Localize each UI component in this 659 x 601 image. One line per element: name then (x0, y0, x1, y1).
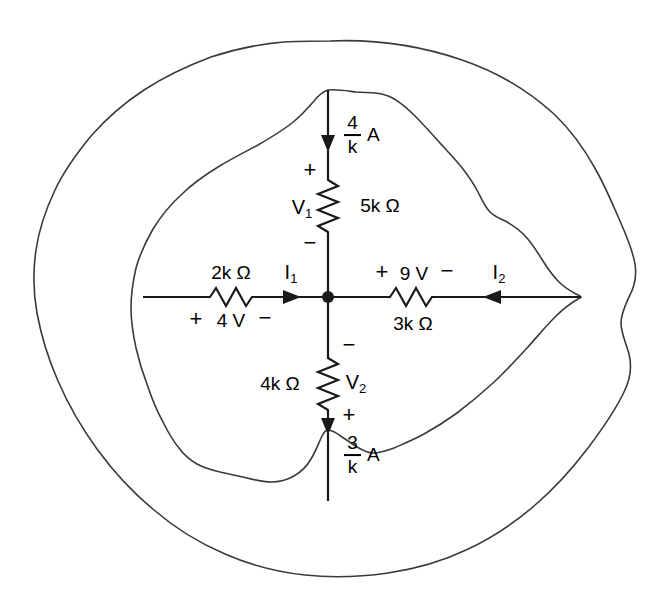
bottom-branch-minus-sign: − (343, 334, 356, 356)
resistor-5k-label: 5k Ω (360, 196, 400, 215)
top-current-source-label: 4 k A (344, 113, 380, 157)
voltage-v2-name: V (346, 371, 359, 393)
top-branch-plus-sign: + (304, 159, 317, 181)
source-9v-plus: + (376, 261, 389, 283)
source-4v-minus: − (259, 307, 272, 329)
bottom-branch-plus-sign: + (343, 404, 356, 426)
top-current-denominator: k (345, 136, 361, 157)
top-branch-minus-sign: − (304, 232, 317, 254)
resistor-2k-zigzag (210, 288, 252, 306)
bottom-current-source-label: 3 k A (344, 433, 380, 477)
current-i2-name: I (493, 261, 499, 283)
current-i2-label: I2 (493, 262, 506, 282)
source-9v-minus: − (441, 260, 454, 282)
bottom-current-arrowhead (321, 418, 335, 435)
current-i2-arrowhead (483, 290, 501, 304)
top-current-arrowhead (321, 135, 335, 152)
top-current-unit: A (367, 124, 380, 146)
bottom-current-denominator: k (345, 456, 361, 477)
current-i1-label: I1 (285, 262, 298, 282)
circuit-diagram: 4 k A + − V1 5k Ω 2k Ω + 4 V − I1 + 9 V … (0, 0, 659, 601)
voltage-v1-label: V1 (292, 197, 313, 217)
resistor-3k-zigzag (390, 288, 432, 306)
resistor-4k-zigzag (318, 358, 338, 410)
resistor-5k-zigzag (318, 180, 338, 232)
bottom-current-fraction: 3 k (344, 433, 361, 477)
outer-boundary-curve (34, 41, 636, 577)
center-node-dot (322, 291, 334, 303)
source-4v-value: 4 V (217, 311, 246, 330)
source-4v-plus: + (190, 308, 203, 330)
circuit-svg (0, 0, 659, 601)
source-9v-value: 9 V (400, 264, 429, 283)
bottom-current-unit: A (367, 444, 380, 466)
current-i1-name: I (285, 261, 291, 283)
top-current-fraction: 4 k (344, 113, 361, 157)
resistor-3k-label: 3k Ω (393, 314, 433, 333)
resistor-4k-label: 4k Ω (260, 374, 300, 393)
voltage-v2-subscript: 2 (359, 381, 366, 396)
bottom-current-numerator: 3 (344, 433, 361, 454)
current-i2-subscript: 2 (498, 271, 505, 286)
current-i1-subscript: 1 (290, 271, 297, 286)
resistor-2k-label: 2k Ω (211, 263, 251, 282)
current-i1-arrowhead (283, 290, 301, 304)
voltage-v1-name: V (292, 196, 305, 218)
voltage-v1-subscript: 1 (305, 206, 312, 221)
voltage-v2-label: V2 (346, 372, 367, 392)
top-current-numerator: 4 (344, 113, 361, 134)
